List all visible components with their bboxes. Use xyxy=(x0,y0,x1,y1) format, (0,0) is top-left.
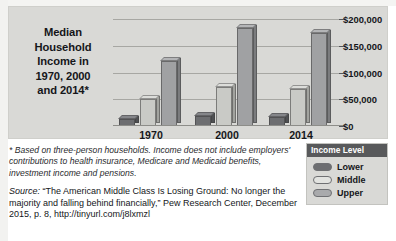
x-axis-label: 2000 xyxy=(197,129,257,141)
bar-face xyxy=(161,61,177,126)
bar xyxy=(290,89,306,126)
legend-swatch xyxy=(313,189,332,197)
bar xyxy=(311,33,327,126)
y-axis-labels: $0$50,000$100,000$150,000$200,000 xyxy=(343,19,396,126)
bar-face xyxy=(311,33,327,126)
y-axis-label: $0 xyxy=(343,121,353,132)
chart-title-line-4: 1970, 2000 xyxy=(15,69,111,84)
chart-title-line-2: Household xyxy=(15,40,111,55)
bar-side xyxy=(232,84,236,123)
chart-title-line-3: Income in xyxy=(15,54,111,69)
legend-label: Middle xyxy=(337,174,366,186)
y-axis-tick xyxy=(339,73,344,74)
y-axis-label: $200,000 xyxy=(343,14,382,25)
legend-title: Income Level xyxy=(307,144,387,157)
y-axis-tick xyxy=(339,46,344,47)
y-axis-tick xyxy=(339,19,344,20)
legend-label: Lower xyxy=(337,161,364,173)
legend-swatch xyxy=(313,163,332,171)
chart-title-line-1: Median xyxy=(15,25,111,40)
source-note: Source: “The American Middle Class Is Lo… xyxy=(9,186,305,221)
source-label: Source: xyxy=(9,186,40,196)
bar-top xyxy=(289,85,310,89)
x-axis-baseline xyxy=(113,125,345,126)
y-axis-tick xyxy=(339,126,344,127)
source-body: “The American Middle Class Is Losing Gro… xyxy=(9,186,297,219)
bar xyxy=(237,28,253,126)
scan-edge-left xyxy=(0,0,8,241)
y-axis-label: $50,000 xyxy=(343,94,377,105)
bar-face xyxy=(237,28,253,126)
bar-side xyxy=(253,25,257,123)
bar xyxy=(140,99,156,126)
bar-side xyxy=(306,86,310,123)
bar-face xyxy=(290,89,306,126)
chart-panel: Median Household Income in 1970, 2000 an… xyxy=(8,6,388,139)
legend-swatch xyxy=(313,176,332,184)
bar xyxy=(216,87,232,126)
y-axis-tick xyxy=(339,99,344,100)
notes-block: * Based on three-person households. Inco… xyxy=(9,145,305,221)
bar-top xyxy=(236,24,257,28)
legend-label: Upper xyxy=(337,187,363,199)
chart-title: Median Household Income in 1970, 2000 an… xyxy=(15,25,111,98)
bar-side xyxy=(327,30,331,123)
bar-group xyxy=(195,19,261,126)
bar-top xyxy=(118,115,139,119)
bar-face xyxy=(216,87,232,126)
plot-area xyxy=(113,19,339,126)
y-axis-label: $150,000 xyxy=(343,40,382,51)
x-axis-label: 2014 xyxy=(271,129,331,141)
bar xyxy=(161,61,177,126)
x-axis-label: 1970 xyxy=(121,129,181,141)
bar-side xyxy=(177,58,181,123)
chart-figure: Median Household Income in 1970, 2000 an… xyxy=(0,0,396,241)
bar-side xyxy=(156,96,160,123)
bar-group xyxy=(269,19,335,126)
chart-title-line-5: and 2014* xyxy=(15,83,111,98)
y-axis-label: $100,000 xyxy=(343,67,382,78)
footnote: * Based on three-person households. Inco… xyxy=(9,145,305,179)
bar-face xyxy=(140,99,156,126)
bar-group xyxy=(119,19,185,126)
bar-top xyxy=(160,57,181,61)
chart-legend: Income Level LowerMiddleUpper xyxy=(306,143,388,205)
